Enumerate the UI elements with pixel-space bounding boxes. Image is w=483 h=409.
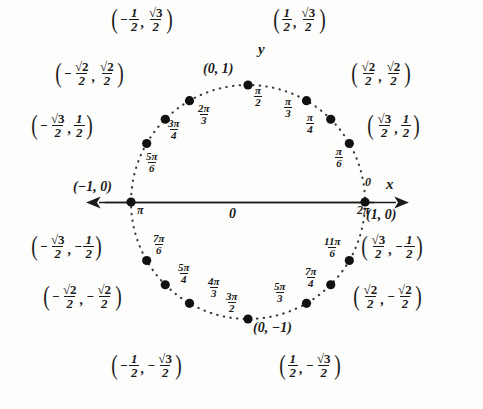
angle-label-5pi-over-3: 5π3 bbox=[272, 281, 288, 304]
coord-label-45-outer: (√22,√22) bbox=[350, 60, 412, 87]
circle-point-225 bbox=[161, 280, 170, 289]
coord-label-135-outer: (−√22,√22) bbox=[54, 60, 125, 87]
angle-label-3pi-over-4: 3π4 bbox=[166, 118, 182, 141]
circle-point-30 bbox=[345, 139, 354, 148]
angle-label-4pi-over-3: 4π3 bbox=[206, 276, 222, 299]
circle-point-45 bbox=[326, 115, 335, 124]
coord-label-60-outer: (12,√32) bbox=[272, 6, 327, 33]
circle-point-60 bbox=[302, 96, 311, 105]
circle-point-315 bbox=[326, 280, 335, 289]
angle-label-7pi-over-6: 7π6 bbox=[151, 233, 167, 256]
circle-point-240 bbox=[185, 299, 194, 308]
origin-label: 0 bbox=[229, 206, 236, 222]
circle-point-270 bbox=[243, 314, 252, 323]
angle-label-pi-over-3: π3 bbox=[283, 96, 293, 119]
x-axis-label: x bbox=[386, 176, 394, 193]
circle-point-300 bbox=[302, 299, 311, 308]
angle-label-2pi-over-3: 2π3 bbox=[196, 103, 212, 126]
angle-label-3pi-over-2: 3π2 bbox=[224, 291, 240, 314]
coord-label-330-outer: (√32,−12) bbox=[360, 233, 424, 260]
angle-label-5pi-over-4: 5π4 bbox=[176, 262, 192, 285]
angle-label-pi-over-6: π6 bbox=[334, 146, 344, 169]
coord-label-225-outer: (−√22,−√22) bbox=[42, 283, 123, 310]
coord-label-240-outer: (−12,−√32) bbox=[110, 352, 183, 379]
angle-label-pi-over-4: π4 bbox=[305, 112, 315, 135]
circle-point-210 bbox=[142, 256, 151, 265]
circle-point-120 bbox=[185, 96, 194, 105]
y-axis-label: y bbox=[258, 41, 265, 58]
circle-point-330 bbox=[345, 256, 354, 265]
circle-point-150 bbox=[142, 139, 151, 148]
angle-label-5pi-over-6: 5π6 bbox=[144, 151, 160, 174]
coord-label-315-outer: (√22,−√22) bbox=[352, 283, 423, 310]
circle-point-90 bbox=[243, 80, 252, 89]
angle-label-11pi-over-6: 11π6 bbox=[322, 236, 342, 259]
unit-circle-figure: 0 2π π π6 π4 π3 π2 2π3 3π4 5π6 7π6 5π4 4… bbox=[0, 0, 483, 409]
coord-label-30-outer: (√32,12) bbox=[366, 112, 421, 139]
angle-label-pi: π bbox=[137, 204, 144, 216]
coord-label-300-outer: (12,−√32) bbox=[278, 352, 342, 379]
point-label-left: (−1, 0) bbox=[73, 179, 112, 195]
coord-label-120-outer: (−12,√32) bbox=[110, 6, 174, 33]
point-label-bottom: (0, −1) bbox=[253, 320, 292, 336]
angle-label-pi-over-2: π2 bbox=[253, 85, 263, 108]
coord-label-210-outer: (−√32,−12) bbox=[30, 233, 103, 260]
angle-label-0: 0 bbox=[365, 176, 371, 188]
point-label-right: (1, 0) bbox=[366, 207, 396, 223]
circle-point-180 bbox=[126, 197, 135, 206]
coord-label-150-outer: (−√32,12) bbox=[30, 112, 94, 139]
point-label-top: (0, 1) bbox=[203, 61, 233, 77]
angle-label-7pi-over-4: 7π4 bbox=[303, 266, 319, 289]
